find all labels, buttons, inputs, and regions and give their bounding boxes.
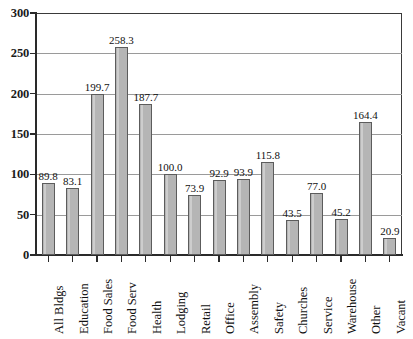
bar bbox=[164, 174, 177, 255]
bar bbox=[359, 122, 372, 255]
bar-value-label: 187.7 bbox=[130, 92, 162, 103]
x-axis-tick bbox=[72, 256, 73, 262]
x-axis-tick bbox=[316, 256, 317, 262]
y-axis-tick-label-wrap: 200 bbox=[0, 88, 29, 100]
bar bbox=[383, 238, 396, 255]
x-axis-category-label: Health bbox=[151, 301, 164, 334]
bar bbox=[139, 104, 152, 255]
x-axis-tick bbox=[96, 256, 97, 262]
y-axis-tick-label-wrap: 100 bbox=[0, 168, 29, 180]
bar-value-label: 115.8 bbox=[252, 150, 284, 161]
bar bbox=[42, 183, 55, 255]
x-axis-tick bbox=[243, 256, 244, 262]
bar-chart: 050100150200250300 89.883.1199.7258.3187… bbox=[0, 0, 413, 339]
bar-value-label: 73.9 bbox=[179, 183, 211, 194]
bar bbox=[115, 47, 128, 255]
y-axis-tick bbox=[30, 53, 35, 54]
y-axis-tick bbox=[30, 214, 35, 215]
x-axis-category-label: Other bbox=[370, 306, 383, 334]
x-axis-tick bbox=[170, 256, 171, 262]
x-axis-tick bbox=[121, 256, 122, 262]
bar-value-label: 100.0 bbox=[154, 162, 186, 173]
bar-value-label: 199.7 bbox=[81, 82, 113, 93]
bar-value-label: 20.9 bbox=[374, 226, 406, 237]
x-axis-tick bbox=[365, 256, 366, 262]
y-axis-tick-label: 0 bbox=[1, 249, 29, 262]
x-axis-category-label: Education bbox=[78, 283, 91, 334]
bar bbox=[335, 219, 348, 255]
bar bbox=[286, 220, 299, 255]
x-axis-category-label: Food Sales bbox=[102, 279, 115, 334]
y-axis-tick-label: 150 bbox=[1, 128, 29, 141]
bar-value-label: 258.3 bbox=[105, 35, 137, 46]
x-axis-tick bbox=[267, 256, 268, 262]
y-axis-tick-label: 50 bbox=[1, 209, 29, 222]
x-axis-tick bbox=[389, 256, 390, 262]
bar bbox=[188, 195, 201, 255]
x-axis-category-label: Retail bbox=[200, 304, 213, 334]
y-axis-tick-label-wrap: 0 bbox=[0, 249, 29, 261]
bar-value-label: 83.1 bbox=[57, 176, 89, 187]
x-axis-category-label: Assembly bbox=[248, 284, 261, 334]
y-axis-tick-label: 250 bbox=[1, 47, 29, 60]
x-axis-category-label: Office bbox=[224, 302, 237, 334]
x-axis-category-label: Service bbox=[322, 297, 335, 334]
bar-value-label: 45.2 bbox=[325, 207, 357, 218]
bar bbox=[237, 179, 250, 255]
y-axis-tick bbox=[30, 254, 35, 255]
y-axis-tick-label-wrap: 300 bbox=[0, 7, 29, 19]
y-axis-tick-label: 300 bbox=[1, 7, 29, 20]
x-axis-category-label: Warehouse bbox=[346, 279, 359, 334]
x-axis-tick bbox=[292, 256, 293, 262]
y-axis-tick-label-wrap: 50 bbox=[0, 209, 29, 221]
y-axis-tick-label: 200 bbox=[1, 88, 29, 101]
bar bbox=[310, 193, 323, 255]
x-axis-category-label: Lodging bbox=[175, 292, 188, 334]
bar-value-label: 77.0 bbox=[301, 181, 333, 192]
bar-value-label: 93.9 bbox=[227, 167, 259, 178]
bar-value-label: 164.4 bbox=[349, 110, 381, 121]
x-axis-category-label: All Bldgs bbox=[53, 286, 66, 334]
gridline bbox=[36, 53, 402, 54]
y-axis-tick bbox=[30, 12, 35, 13]
y-axis-tick-label: 100 bbox=[1, 168, 29, 181]
bar bbox=[213, 180, 226, 255]
y-axis-tick bbox=[30, 133, 35, 134]
bar bbox=[91, 94, 104, 255]
x-axis-tick bbox=[194, 256, 195, 262]
y-axis-tick bbox=[30, 93, 35, 94]
x-axis-category-label: Safety bbox=[273, 302, 286, 334]
x-axis-tick bbox=[340, 256, 341, 262]
y-axis-line bbox=[35, 12, 37, 256]
y-axis-tick-label-wrap: 150 bbox=[0, 128, 29, 140]
x-axis-category-label: Churches bbox=[297, 287, 310, 334]
y-axis-tick-label-wrap: 250 bbox=[0, 47, 29, 59]
x-axis-tick bbox=[218, 256, 219, 262]
x-axis-tick bbox=[48, 256, 49, 262]
x-axis-category-label: Food Serv bbox=[126, 282, 139, 334]
bar bbox=[66, 188, 79, 255]
bar bbox=[261, 162, 274, 255]
x-axis-category-label: Vacant bbox=[395, 300, 408, 334]
bar-value-label: 43.5 bbox=[276, 208, 308, 219]
x-axis-tick bbox=[145, 256, 146, 262]
